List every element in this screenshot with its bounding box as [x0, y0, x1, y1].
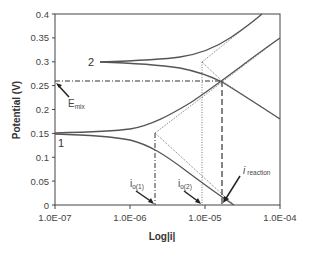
io1-label: io(1) — [130, 178, 144, 191]
curve-2-cathodic — [100, 62, 280, 119]
x-tick-label: 1.0E-07 — [38, 212, 71, 223]
x-axis — [55, 205, 280, 209]
polarization-curves — [55, 14, 280, 205]
x-tick-label: 1.0E-05 — [188, 212, 221, 223]
x-tick-label: 1.0E-04 — [263, 212, 296, 223]
ireaction-arrow — [225, 176, 240, 200]
tafel-extrapolations — [155, 14, 280, 205]
emix-arrowhead-icon — [56, 83, 62, 88]
chart: 0 0.05 0.1 0.15 0.2 0.25 0.3 0.35 0.4 1.… — [0, 0, 310, 254]
y-tick-label: 0.4 — [36, 9, 49, 20]
io1-arrowhead-icon — [148, 198, 154, 204]
curve-1-label: 1 — [58, 137, 64, 149]
plot-frame — [55, 14, 280, 205]
io2-label: io(2) — [178, 178, 192, 191]
x-tick-label: 1.0E-06 — [113, 212, 146, 223]
y-tick-label: 0 — [44, 200, 49, 211]
curve-1-cathodic — [55, 134, 234, 205]
x-axis-label: Log|i| — [149, 231, 176, 242]
curve-2-anodic — [100, 14, 262, 62]
y-tick-label: 0.25 — [31, 80, 50, 91]
y-tick-label: 0.2 — [36, 104, 49, 115]
y-tick-label: 0.3 — [36, 56, 49, 67]
y-tick-label: 0.1 — [36, 152, 49, 163]
y-tick-label: 0.35 — [31, 32, 50, 43]
curve-1-anodic — [55, 38, 280, 133]
curve-2-label: 2 — [88, 56, 94, 68]
y-tick-label: 0.05 — [31, 176, 50, 187]
y-tick-label: 0.15 — [31, 128, 50, 139]
ireaction-label: ireaction — [243, 165, 271, 176]
y-axis-label: Potential (V) — [11, 81, 22, 139]
emix-label: Emix — [68, 98, 86, 110]
